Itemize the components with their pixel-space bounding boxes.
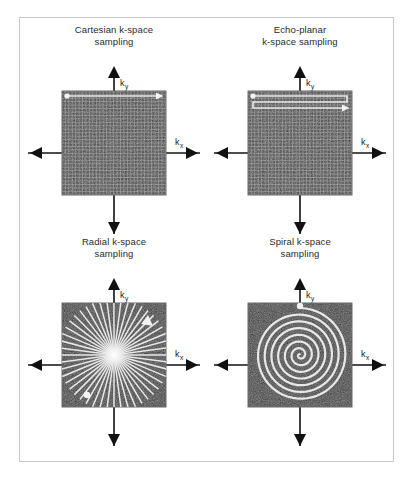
svg-text:x: x [180,142,184,149]
panel-spiral-diagram: k y k x [206,258,394,448]
kspace-square-cartesian [62,91,166,195]
start-marker-dot [250,93,255,98]
svg-text:y: y [125,295,129,303]
panel-radial: Radial k-space sampling [20,230,208,452]
arrow-up [108,66,120,78]
svg-text:x: x [366,142,370,149]
kspace-square-echo-planar [248,91,352,195]
figure-frame: Cartesian k-space sampling [19,17,394,462]
panel-cartesian-title: Cartesian k-space sampling [20,24,208,47]
arrow-right [372,147,384,159]
axis-label-kx: k x [361,137,370,149]
panel-cartesian-diagram: k y k x [20,46,208,236]
arrow-right [186,147,198,159]
axis-label-ky: k y [120,290,129,303]
svg-text:y: y [311,83,315,91]
arrow-up [294,66,306,78]
panel-echo-planar: Echo-planar k-space sampling [206,18,394,240]
axis-label-kx: k x [175,137,184,149]
axis-label-kx: k x [175,349,184,361]
arrow-down [108,434,120,446]
arrow-left [30,359,42,371]
svg-text:x: x [180,354,184,361]
panel-echo-planar-title: Echo-planar k-space sampling [206,24,394,47]
axis-label-ky: k y [120,78,129,91]
axis-label-kx: k x [361,349,370,361]
panel-echo-planar-diagram: k y k x [206,46,394,236]
arrow-left [216,147,228,159]
arrow-left [30,147,42,159]
panel-spiral-title: Spiral k-space sampling [206,236,394,259]
panel-radial-title: Radial k-space sampling [20,236,208,259]
panel-spiral: Spiral k-space sampling [206,230,394,452]
axis-label-ky: k y [306,290,315,303]
start-marker-dot [297,303,303,309]
svg-text:y: y [311,295,315,303]
start-marker-dot [84,392,90,398]
axis-label-ky: k y [306,78,315,91]
arrow-up [294,278,306,290]
arrow-up [108,278,120,290]
panel-radial-diagram: k y k x [20,258,208,448]
start-marker-dot [64,93,69,98]
svg-text:y: y [125,83,129,91]
arrow-right [186,359,198,371]
arrow-left [216,359,228,371]
arrow-down [294,434,306,446]
kspace-center-hotspot [103,344,125,366]
arrow-right [372,359,384,371]
svg-text:x: x [366,354,370,361]
panel-cartesian: Cartesian k-space sampling [20,18,208,240]
